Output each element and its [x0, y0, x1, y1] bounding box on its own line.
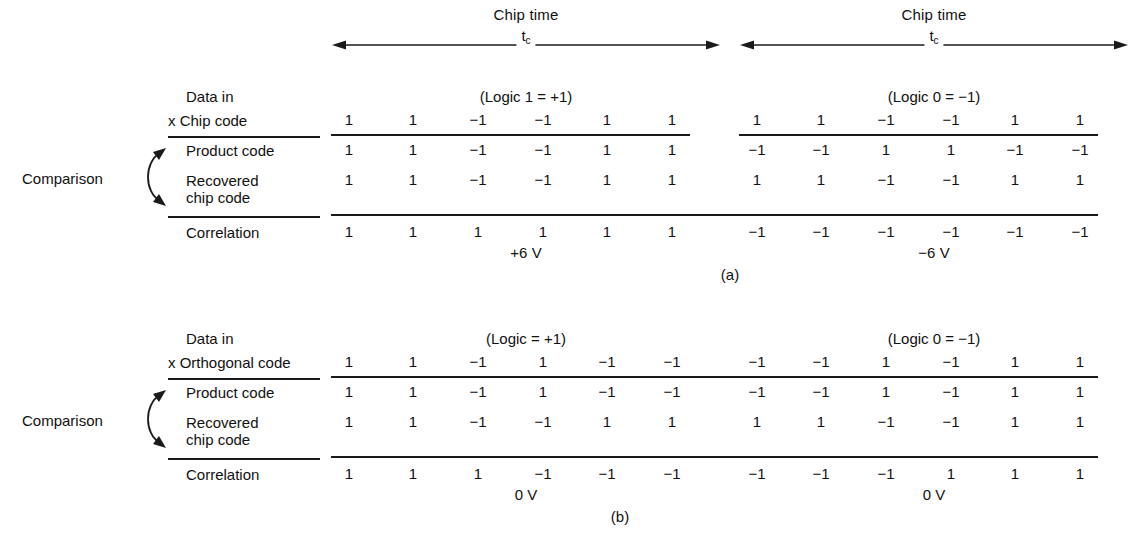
- data-cell: −1: [929, 170, 973, 190]
- data-cell: −1: [650, 352, 694, 372]
- data-cell: 1: [864, 352, 908, 372]
- data-cell: −1: [993, 222, 1037, 242]
- data-cell: −1: [1058, 140, 1102, 160]
- data-cell: 1: [735, 110, 779, 130]
- data-cell: 1: [864, 140, 908, 160]
- data-cell: −1: [521, 412, 565, 432]
- data-cell: 1: [585, 412, 629, 432]
- data-cell: 1: [650, 110, 694, 130]
- data-cell: −1: [864, 464, 908, 484]
- figure-panel-a: Chip time tc Chip time tc (Logic 1 = +1)…: [0, 0, 1142, 285]
- data-cell: 1: [993, 382, 1037, 402]
- data-cell: 1: [327, 412, 371, 432]
- data-cell: 1: [1058, 464, 1102, 484]
- data-cell: 1: [585, 170, 629, 190]
- data-cell: 1: [391, 352, 435, 372]
- data-cell: 1: [1058, 170, 1102, 190]
- data-cell: −1: [735, 140, 779, 160]
- data-cell: −1: [650, 464, 694, 484]
- data-cell: 1: [650, 170, 694, 190]
- data-cell: 1: [327, 352, 371, 372]
- data-cell: 1: [521, 382, 565, 402]
- data-cell: 1: [799, 170, 843, 190]
- data-cell: −1: [735, 464, 779, 484]
- product-row: 11−11−1−1−1−11−111: [0, 382, 1142, 402]
- data-cell: 1: [799, 110, 843, 130]
- data-grid-a: 11−1−11111−1−11111−1−111−1−111−1−111−1−1…: [0, 0, 1142, 285]
- data-cell: 1: [327, 170, 371, 190]
- data-cell: −1: [993, 140, 1037, 160]
- data-cell: −1: [585, 382, 629, 402]
- data-cell: 1: [391, 140, 435, 160]
- data-cell: 1: [735, 170, 779, 190]
- figure-panel-b: (Logic = +1) (Logic 0 = −1) Data in x Or…: [0, 285, 1142, 559]
- data-cell: −1: [1058, 222, 1102, 242]
- data-cell: 1: [456, 222, 500, 242]
- data-cell: −1: [799, 382, 843, 402]
- data-cell: 1: [456, 464, 500, 484]
- data-cell: 1: [585, 222, 629, 242]
- voltage-b-right: 0 V: [874, 486, 994, 503]
- data-cell: 1: [585, 110, 629, 130]
- data-cell: −1: [456, 110, 500, 130]
- figure-caption-a: (a): [700, 266, 760, 283]
- data-cell: −1: [929, 222, 973, 242]
- product-row: 11−1−111−1−111−1−1: [0, 140, 1142, 160]
- data-cell: −1: [521, 464, 565, 484]
- data-cell: −1: [521, 140, 565, 160]
- data-cell: 1: [521, 352, 565, 372]
- data-cell: 1: [1058, 352, 1102, 372]
- data-grid-b: 11−11−1−1−1−11−11111−11−1−1−1−11−11111−1…: [0, 285, 1142, 559]
- data-cell: 1: [391, 170, 435, 190]
- data-cell: 1: [391, 110, 435, 130]
- data-cell: −1: [456, 412, 500, 432]
- data-cell: 1: [1058, 412, 1102, 432]
- data-cell: 1: [585, 140, 629, 160]
- data-cell: −1: [799, 222, 843, 242]
- data-cell: −1: [864, 412, 908, 432]
- data-cell: −1: [864, 110, 908, 130]
- data-cell: 1: [993, 464, 1037, 484]
- grid-rule: [331, 456, 1098, 458]
- data-cell: 1: [799, 412, 843, 432]
- data-cell: −1: [735, 222, 779, 242]
- code-row: 11−1−11111−1−111: [0, 110, 1142, 130]
- recovered-row: 11−1−11111−1−111: [0, 170, 1142, 190]
- data-cell: 1: [735, 412, 779, 432]
- data-cell: −1: [456, 170, 500, 190]
- voltage-a-left: +6 V: [466, 244, 586, 261]
- data-cell: 1: [327, 382, 371, 402]
- data-cell: −1: [864, 170, 908, 190]
- data-cell: −1: [929, 110, 973, 130]
- grid-rule: [331, 214, 1098, 216]
- data-cell: −1: [521, 110, 565, 130]
- data-cell: 1: [391, 222, 435, 242]
- data-cell: −1: [735, 382, 779, 402]
- data-cell: −1: [929, 352, 973, 372]
- grid-rule: [739, 134, 1098, 136]
- data-cell: 1: [993, 412, 1037, 432]
- data-cell: 1: [391, 382, 435, 402]
- correlation-row: 111−1−1−1−1−1−1111: [0, 464, 1142, 484]
- data-cell: −1: [929, 382, 973, 402]
- data-cell: 1: [993, 170, 1037, 190]
- data-cell: 1: [1058, 110, 1102, 130]
- data-cell: −1: [799, 352, 843, 372]
- data-cell: −1: [585, 352, 629, 372]
- data-cell: −1: [650, 382, 694, 402]
- data-cell: −1: [456, 352, 500, 372]
- voltage-a-right: −6 V: [874, 244, 994, 261]
- data-cell: −1: [864, 222, 908, 242]
- data-cell: 1: [929, 140, 973, 160]
- data-cell: 1: [327, 110, 371, 130]
- figure-caption-b: (b): [590, 508, 650, 525]
- data-cell: −1: [585, 464, 629, 484]
- data-cell: −1: [799, 464, 843, 484]
- data-cell: 1: [993, 110, 1037, 130]
- data-cell: 1: [650, 412, 694, 432]
- data-cell: −1: [456, 382, 500, 402]
- data-cell: −1: [929, 412, 973, 432]
- data-cell: 1: [391, 464, 435, 484]
- grid-rule: [331, 376, 1098, 378]
- data-cell: −1: [735, 352, 779, 372]
